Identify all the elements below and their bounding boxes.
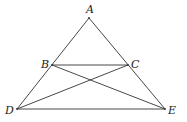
segment-CD (17, 65, 128, 109)
segment-AD (17, 18, 89, 109)
label-E: E (167, 104, 176, 117)
label-D: D (4, 104, 14, 117)
segment-AE (89, 18, 165, 109)
label-C: C (131, 58, 140, 71)
geometry-diagram: A B C D E (0, 0, 187, 122)
point-B (51, 64, 53, 66)
label-B: B (40, 58, 49, 71)
label-A: A (85, 3, 94, 16)
segment-BE (52, 65, 165, 109)
point-C (127, 64, 129, 66)
point-D (16, 108, 18, 110)
point-E (164, 108, 166, 110)
point-A (88, 17, 90, 19)
